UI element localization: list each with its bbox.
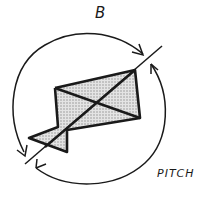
- label-b: B: [95, 4, 106, 22]
- label-pitch: PITCH: [157, 167, 195, 180]
- kite-body: [29, 70, 140, 152]
- pitch-diagram: B PITCH: [0, 0, 209, 201]
